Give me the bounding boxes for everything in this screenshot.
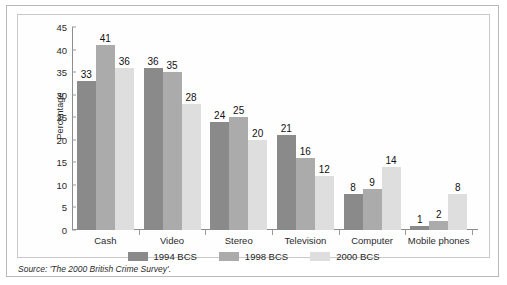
y-axis-tick-label: 35	[56, 67, 67, 78]
bar[interactable]	[315, 176, 334, 230]
y-axis-tick-label: 10	[56, 179, 67, 190]
bar-item[interactable]: 33	[77, 81, 96, 230]
bar[interactable]	[144, 68, 163, 230]
y-axis-tick-label: 15	[56, 157, 67, 168]
bar[interactable]	[382, 167, 401, 230]
bar[interactable]	[363, 189, 382, 230]
bar-value-label: 20	[252, 129, 263, 139]
chart-container: Percentage 051015202530354045 3341363635…	[17, 14, 490, 258]
y-axis-tick-label: 20	[56, 134, 67, 145]
bar-group: 8914	[339, 27, 406, 230]
x-axis-category-labels: CashVideoStereoTelevisionComputerMobile …	[72, 235, 472, 246]
y-axis-tick-label: 45	[56, 22, 67, 33]
bar-value-label: 9	[369, 178, 375, 188]
x-axis-category-label: Stereo	[205, 235, 272, 246]
bar[interactable]	[248, 140, 267, 230]
bar-value-label: 1	[417, 215, 423, 225]
bar-item[interactable]: 16	[296, 158, 315, 230]
legend-color-swatch	[128, 252, 148, 261]
bar-value-label: 21	[281, 124, 292, 134]
bar[interactable]	[448, 194, 467, 230]
bar-item[interactable]: 41	[96, 45, 115, 230]
bar-item[interactable]: 36	[115, 68, 134, 230]
bar[interactable]	[163, 72, 182, 230]
x-axis-category-label: Mobile phones	[405, 235, 472, 246]
plot-area: 051015202530354045 334136363528242520211…	[72, 27, 472, 230]
legend-item[interactable]: 1998 BCS	[219, 251, 288, 262]
x-axis-category-label: Video	[139, 235, 206, 246]
bar-item[interactable]: 1	[410, 226, 429, 231]
y-axis-tick-label: 0	[62, 225, 67, 236]
y-axis-tick-label: 30	[56, 89, 67, 100]
bar-value-label: 33	[81, 70, 92, 80]
bar-value-label: 36	[147, 57, 158, 67]
bar[interactable]	[429, 221, 448, 230]
legend-color-swatch	[219, 252, 239, 261]
bar-value-label: 12	[319, 165, 330, 175]
x-axis-divider	[472, 230, 473, 235]
bar-value-label: 36	[119, 57, 130, 67]
bar[interactable]	[77, 81, 96, 230]
bar[interactable]	[344, 194, 363, 230]
bar-value-label: 24	[214, 111, 225, 121]
bar-item[interactable]: 8	[344, 194, 363, 230]
bar[interactable]	[210, 122, 229, 230]
chart-legend: 1994 BCS1998 BCS2000 BCS	[18, 251, 489, 262]
bar-item[interactable]: 2	[429, 221, 448, 230]
bar-value-label: 8	[455, 183, 461, 193]
figure-frame: Percentage 051015202530354045 3341363635…	[6, 5, 499, 277]
bar-groups: 3341363635282425202116128914128	[72, 27, 472, 230]
bar[interactable]	[115, 68, 134, 230]
bar-value-label: 25	[233, 106, 244, 116]
legend-item[interactable]: 1994 BCS	[128, 251, 197, 262]
x-axis-category-label: Computer	[339, 235, 406, 246]
bar-item[interactable]: 21	[277, 135, 296, 230]
bar-item[interactable]: 9	[363, 189, 382, 230]
bar-item[interactable]: 28	[182, 104, 201, 230]
y-axis-tick-label: 25	[56, 112, 67, 123]
bar-group: 363528	[139, 27, 206, 230]
bar-value-label: 14	[385, 156, 396, 166]
bar-item[interactable]: 8	[448, 194, 467, 230]
bar-value-label: 8	[350, 183, 356, 193]
bar-item[interactable]: 20	[248, 140, 267, 230]
bar-group: 128	[405, 27, 472, 230]
bar-value-label: 16	[300, 147, 311, 157]
legend-label: 2000 BCS	[336, 251, 379, 262]
bar-value-label: 28	[185, 93, 196, 103]
bar-group: 211612	[272, 27, 339, 230]
x-axis-category-label: Cash	[72, 235, 139, 246]
bar[interactable]	[96, 45, 115, 230]
bar[interactable]	[410, 226, 429, 231]
legend-label: 1998 BCS	[245, 251, 288, 262]
bar-group: 334136	[72, 27, 139, 230]
bar-item[interactable]: 35	[163, 72, 182, 230]
bar[interactable]	[277, 135, 296, 230]
y-axis-tick-label: 40	[56, 44, 67, 55]
bar-item[interactable]: 36	[144, 68, 163, 230]
legend-color-swatch	[310, 252, 330, 261]
y-axis-tick-label: 5	[62, 202, 67, 213]
bar-item[interactable]: 12	[315, 176, 334, 230]
bar-item[interactable]: 25	[229, 117, 248, 230]
bar-value-label: 41	[100, 34, 111, 44]
legend-label: 1994 BCS	[154, 251, 197, 262]
bar-value-label: 2	[436, 210, 442, 220]
bar[interactable]	[229, 117, 248, 230]
legend-item[interactable]: 2000 BCS	[310, 251, 379, 262]
x-axis-category-label: Television	[272, 235, 339, 246]
bar[interactable]	[296, 158, 315, 230]
bar-value-label: 35	[166, 61, 177, 71]
bar-item[interactable]: 14	[382, 167, 401, 230]
bar-group: 242520	[205, 27, 272, 230]
bar-item[interactable]: 24	[210, 122, 229, 230]
source-note: Source: 'The 2000 British Crime Survey'.	[18, 264, 171, 274]
bar[interactable]	[182, 104, 201, 230]
